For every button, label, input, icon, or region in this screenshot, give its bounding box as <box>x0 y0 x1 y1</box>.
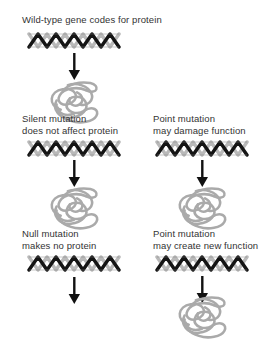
dna-double-helix-icon-wildtype <box>27 30 123 52</box>
label-silent-mutation-line2: does not affect protein <box>22 125 118 137</box>
label-point-mutation-damage: Point mutation may damage function <box>153 113 246 136</box>
dna-double-helix-icon-silent <box>27 138 123 160</box>
label-silent-mutation: Silent mutation does not affect protein <box>22 113 118 136</box>
label-point-mutation-damage-line2: may damage function <box>153 125 246 137</box>
dna-double-helix-icon-point-new <box>155 253 251 275</box>
no-protein-placeholder <box>43 305 105 329</box>
label-null-mutation-line1: Null mutation <box>22 228 96 240</box>
protein-coil-icon-point-new <box>171 293 233 341</box>
label-silent-mutation-line1: Silent mutation <box>22 113 118 125</box>
label-null-mutation: Null mutation makes no protein <box>22 228 96 251</box>
dna-double-helix-icon-null <box>27 253 123 275</box>
label-wildtype: Wild-type gene codes for protein <box>22 14 162 26</box>
dna-double-helix-icon-point-damage <box>155 138 251 160</box>
label-wildtype-line1: Wild-type gene codes for protein <box>22 14 162 26</box>
label-null-mutation-line2: makes no protein <box>22 240 96 252</box>
protein-coil-icon-silent <box>43 184 105 232</box>
label-point-mutation-new-function-line2: may create new function <box>153 240 258 252</box>
down-arrow-icon-wildtype <box>68 53 81 81</box>
label-point-mutation-new-function-line1: Point mutation <box>153 228 258 240</box>
down-arrow-icon-null <box>68 277 81 305</box>
protein-coil-icon-point-damage <box>171 184 233 232</box>
label-point-mutation-damage-line1: Point mutation <box>153 113 246 125</box>
label-point-mutation-new-function: Point mutation may create new function <box>153 228 258 251</box>
